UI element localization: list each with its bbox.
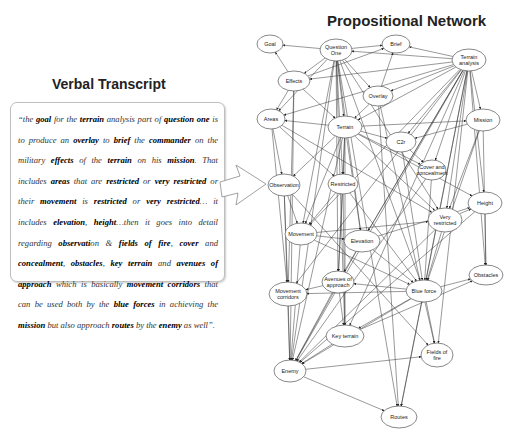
node-goal: Goal xyxy=(257,35,283,53)
node-label: Elevation xyxy=(351,238,374,244)
node-movement: Movement xyxy=(285,223,317,245)
node-label: One xyxy=(331,50,341,56)
network-edge xyxy=(408,70,461,134)
node-label: concealment xyxy=(416,170,448,176)
node-label: Routes xyxy=(390,414,408,420)
node-label: corridors xyxy=(277,294,299,300)
network-edge xyxy=(355,104,370,118)
network-edge xyxy=(415,124,467,138)
network-edge xyxy=(275,52,288,72)
network-edge xyxy=(354,284,406,289)
node-areas: Areas xyxy=(257,109,285,129)
network-edge xyxy=(447,71,468,208)
node-label: approach xyxy=(327,282,350,288)
node-movement-corridors: Movementcorridors xyxy=(269,282,307,306)
propositional-network-diagram: GoalQuestionOneBriefTerrainanalysisEffec… xyxy=(0,0,522,443)
node-label: Blue force xyxy=(412,288,437,294)
node-elevation: Elevation xyxy=(344,230,380,252)
node-label: Effects xyxy=(286,78,303,84)
node-label: Cover and xyxy=(419,164,444,170)
network-edge xyxy=(302,344,332,363)
node-label: Mission xyxy=(474,117,493,123)
node-label: Goal xyxy=(264,41,276,47)
network-edge xyxy=(309,193,336,225)
network-edge xyxy=(307,291,406,293)
network-edge xyxy=(460,209,471,214)
network-edge xyxy=(352,45,382,48)
node-label: fire xyxy=(433,355,441,361)
node-label: Observation xyxy=(269,182,299,188)
node-mission: Mission xyxy=(466,109,500,131)
node-restricted: Restricted xyxy=(328,174,358,194)
network-edge xyxy=(373,250,413,282)
network-edge xyxy=(303,89,335,118)
node-terrain: Terrain xyxy=(328,116,362,138)
node-label: Avenues of xyxy=(324,276,352,282)
network-edge xyxy=(304,377,385,411)
node-label: restricted xyxy=(434,220,457,226)
node-blue-force: Blue force xyxy=(406,280,442,302)
network-edge xyxy=(362,121,466,126)
node-label: Terrain xyxy=(461,54,478,60)
node-label: Obstacles xyxy=(474,272,499,278)
network-edge xyxy=(293,136,335,176)
node-overlay: Overlay xyxy=(363,86,393,106)
network-edge xyxy=(409,47,453,57)
network-edge xyxy=(285,120,328,125)
node-label: Question xyxy=(325,44,347,50)
node-label: Brief xyxy=(390,41,402,47)
node-cover-concealment: Cover andconcealment xyxy=(416,160,448,180)
node-label: Fields of xyxy=(427,349,448,355)
node-effects: Effects xyxy=(278,71,310,91)
node-key-terrain: Key terrain xyxy=(326,325,364,347)
network-edge xyxy=(283,45,320,48)
node-observation: Observation xyxy=(268,174,300,196)
node-label: Very xyxy=(439,214,450,220)
callout-arrow-icon xyxy=(220,165,266,205)
node-label: Height xyxy=(477,200,493,206)
node-avenues-of-approach: Avenues ofapproach xyxy=(322,271,354,293)
network-edge xyxy=(361,131,387,138)
node-c2: C2r xyxy=(386,132,416,152)
network-edge xyxy=(425,180,432,280)
node-height: Height xyxy=(468,192,502,214)
node-enemy: Enemy xyxy=(274,360,306,382)
network-edge xyxy=(470,71,484,192)
node-label: Restricted xyxy=(331,181,356,187)
node-label: Movement xyxy=(275,288,301,294)
node-label: Terrain xyxy=(337,124,354,130)
network-edge xyxy=(306,286,323,290)
node-label: C2r xyxy=(397,139,406,145)
network-edge xyxy=(288,306,289,360)
network-edge xyxy=(292,61,335,360)
node-very-restricted: Veryrestricted xyxy=(428,208,462,232)
network-edge xyxy=(306,357,421,370)
node-routes: Routes xyxy=(381,406,417,428)
network-edge xyxy=(391,66,455,91)
node-label: Overlay xyxy=(369,93,388,99)
network-edge xyxy=(485,214,486,265)
node-label: Key terrain xyxy=(332,333,359,339)
node-fields-of-fire: Fields offire xyxy=(421,343,453,367)
node-terrain-analysis: Terrainanalysis xyxy=(452,49,486,71)
node-question-one: QuestionOne xyxy=(320,39,352,61)
network-edge xyxy=(280,127,334,176)
node-label: Areas xyxy=(264,116,279,122)
network-edge xyxy=(310,62,453,79)
network-edge xyxy=(470,71,485,265)
node-label: Enemy xyxy=(281,368,298,374)
network-edge xyxy=(359,299,411,329)
node-label: analysis xyxy=(459,60,479,66)
network-edge xyxy=(472,71,481,109)
node-label: Movement xyxy=(288,231,314,237)
network-edge xyxy=(426,302,434,343)
node-brief: Brief xyxy=(382,35,410,53)
node-obstacles: Obstacles xyxy=(469,265,503,285)
network-edge xyxy=(401,302,422,406)
